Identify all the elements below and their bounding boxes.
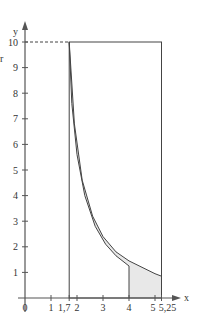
- x-tick-label: 1: [49, 302, 54, 313]
- x-tick-label: 5: [151, 302, 156, 313]
- y-axis-arrow: [22, 21, 28, 30]
- outer-curve: [69, 42, 161, 276]
- y-tick-label: 5: [13, 165, 18, 176]
- curves: [69, 42, 161, 276]
- x-axis-arrow: [172, 295, 181, 301]
- x-tick-label: 2: [75, 302, 80, 313]
- x-tick-label: 4: [127, 302, 132, 313]
- x-tick-label: 0: [23, 302, 28, 313]
- y-tick-label: 10: [8, 37, 18, 48]
- x-tick-label: 3: [101, 302, 106, 313]
- y-tick-label: 4: [13, 190, 18, 201]
- chart: 011,723455,25 12345678910 y x r: [0, 0, 198, 327]
- y-tick-label: 7: [13, 113, 18, 124]
- bounding-rectangle: [69, 42, 161, 298]
- y-tick-label: 8: [13, 88, 18, 99]
- y-tick-label: 2: [13, 241, 18, 252]
- axes: [18, 21, 181, 312]
- rectangle-frame: [25, 42, 162, 298]
- shaded-region: [69, 42, 161, 298]
- side-letter: r: [0, 53, 4, 64]
- y-tick-label: 6: [13, 139, 18, 150]
- y-tick-label: 9: [13, 62, 18, 73]
- x-tick-label: 5,25: [159, 302, 177, 313]
- x-axis-label: x: [184, 292, 189, 303]
- y-tick-label: 3: [13, 216, 18, 227]
- y-tick-label: 1: [13, 267, 18, 278]
- shaded-area: [69, 42, 161, 298]
- x-tick-label: 1,7: [58, 302, 71, 313]
- y-axis-label: y: [13, 26, 18, 37]
